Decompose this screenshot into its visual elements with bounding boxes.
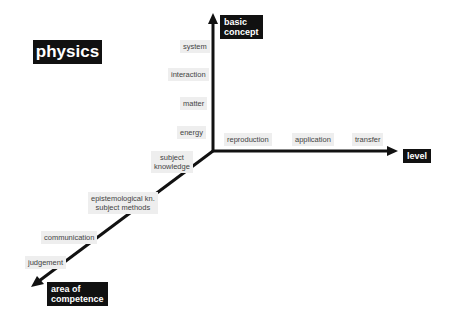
label-line: competence <box>51 294 104 304</box>
right-arrow-icon <box>387 146 398 156</box>
tick-interaction: interaction <box>168 68 209 81</box>
tick-energy: energy <box>177 126 206 139</box>
tick-communication: communication <box>41 231 97 244</box>
tick-judgement: judgement <box>25 256 66 269</box>
tick-system: system <box>180 40 210 53</box>
label-line: area of <box>51 284 104 294</box>
tick-subject-knowledge: subject knowledge <box>151 151 193 173</box>
diagonal-axis-label: area of competence <box>47 282 108 306</box>
up-arrow-icon <box>208 13 218 24</box>
tick-line: subject methods <box>91 203 155 212</box>
tick-line: knowledge <box>154 162 190 171</box>
tick-application: application <box>292 133 334 146</box>
page-title: physics <box>33 40 102 64</box>
tick-reproduction: reproduction <box>224 133 272 146</box>
tick-epistemological: epistemological kn. subject methods <box>88 192 158 214</box>
tick-line: subject <box>154 153 190 162</box>
tick-line: epistemological kn. <box>91 194 155 203</box>
tick-matter: matter <box>180 97 207 110</box>
vertical-axis-label: basic concept <box>220 15 263 39</box>
label-line: basic <box>224 17 259 27</box>
tick-transfer: transfer <box>352 133 383 146</box>
horizontal-axis-label: level <box>403 149 431 163</box>
label-line: concept <box>224 27 259 37</box>
